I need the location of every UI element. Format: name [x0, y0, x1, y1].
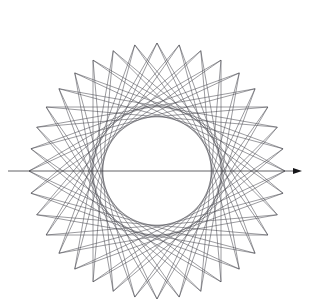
figure-canvas	[0, 0, 309, 308]
spirograph-star-svg	[0, 0, 309, 308]
